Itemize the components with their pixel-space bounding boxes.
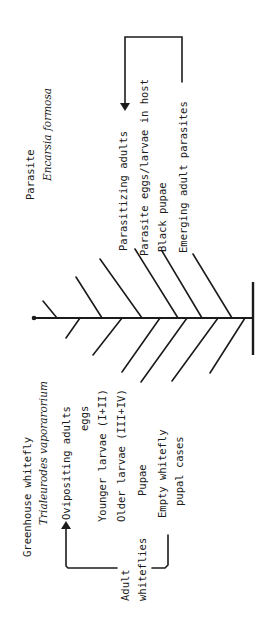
host-stage-older-larvae: Older larvae (III+IV): [115, 389, 127, 522]
parasite-stage-black-pupae: Black pupae: [156, 182, 168, 252]
parasite-cycle-arrow: [120, 37, 182, 111]
parasite-stage-emerging-adults: Emerging adult parasites: [177, 101, 189, 253]
parasite-species: Encarsia formosa: [41, 88, 53, 182]
host-stage-empty-cases-line1: Empty whitefly: [156, 429, 168, 518]
host-cycle-arrow: [61, 521, 168, 568]
host-cycle-label-adult: Adult: [119, 569, 131, 601]
lower-branches: [66, 318, 245, 382]
host-stage-empty-cases-line2: pupal cases: [173, 436, 185, 506]
axis-start-dot: [32, 316, 37, 321]
arrow-down-icon: [120, 103, 130, 111]
host-stage-younger-larvae: Younger larvae (I+II): [96, 389, 108, 522]
host-title: Greenhouse whitefly: [21, 437, 33, 557]
host-species: Trialeurodes vaporarorium: [37, 381, 49, 525]
life-cycle-diagram: Parasite Encarsia formosa Parasitizing a…: [0, 0, 264, 628]
host-stage-ovipositing-adults: Ovipositing adults: [60, 406, 72, 520]
host-stage-eggs: eggs: [78, 406, 90, 431]
parasite-stage-eggs-larvae: Parasite eggs/larvae in host: [138, 79, 150, 256]
parasite-title: Parasite: [24, 149, 36, 200]
host-stage-pupae: Pupae: [136, 464, 148, 496]
arrow-up-icon: [61, 521, 71, 529]
upper-branches: [43, 249, 232, 318]
host-cycle-label-whiteflies: whiteflies: [136, 538, 148, 601]
parasite-stage-parasitizing-adults: Parasitizing adults: [117, 131, 129, 251]
